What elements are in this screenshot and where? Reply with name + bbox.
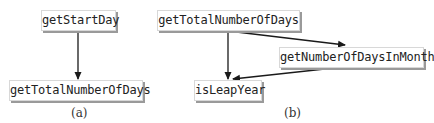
node-a-gettotalnumberofdays: getTotalNumberOfDays	[9, 80, 143, 101]
edge-b-getnumberofdaysinmonth-to-isleapyear	[233, 67, 343, 79]
caption-a: (a)	[71, 106, 88, 120]
diagram-canvas: getStartDay getTotalNumberOfDays (a) get…	[0, 0, 434, 123]
edge-b-gettotalnumberofdays-to-getnumberofdaysinmonth	[228, 31, 345, 45]
node-b-gettotalnumberofdays: getTotalNumberOfDays	[157, 10, 300, 31]
caption-b: (b)	[284, 106, 301, 120]
node-b-isleapyear: isLeapYear	[194, 80, 262, 101]
node-a-getstartday: getStartDay	[41, 10, 116, 31]
node-b-getnumberofdaysinmonth: getNumberOfDaysInMonth	[279, 47, 424, 68]
